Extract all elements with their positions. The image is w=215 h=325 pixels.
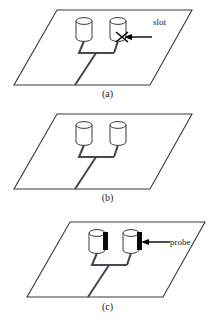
- probe-arrow-icon: [141, 239, 170, 245]
- cylinder-left-a: [76, 18, 92, 42]
- probe-bar-right-icon: [137, 232, 142, 250]
- probe-annotation-label: probe: [170, 237, 191, 247]
- slot-arrow-icon: [124, 34, 152, 40]
- microstrip-feed-b-outline: [75, 145, 118, 189]
- panel-c-caption: (c): [0, 301, 215, 312]
- ground-plane-c: [27, 222, 205, 297]
- panel-b: [14, 114, 192, 189]
- slot-annotation-label: slot: [153, 17, 166, 27]
- cylinder-right-b: [110, 122, 126, 146]
- panel-c: [27, 222, 205, 297]
- ground-plane-b: [14, 114, 192, 189]
- three-panel-antenna-diagram: [0, 0, 215, 325]
- cylinder-right-c: [123, 230, 139, 254]
- microstrip-feed-a-outline: [75, 41, 118, 85]
- microstrip-feed-c-outline: [88, 253, 131, 297]
- cylinder-left-b: [76, 122, 92, 146]
- cylinder-left-c: [89, 230, 105, 254]
- panel-a-caption: (a): [0, 88, 215, 99]
- panel-b-caption: (b): [0, 192, 215, 203]
- probe-bar-left-icon: [103, 232, 108, 250]
